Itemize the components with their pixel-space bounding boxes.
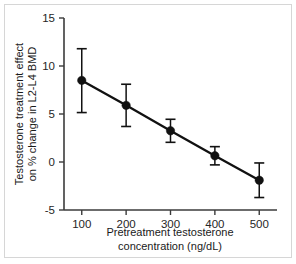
y-axis-title-line2: on % change in L2-L4 BMD xyxy=(26,47,38,182)
y-tick-label: 0 xyxy=(49,156,55,168)
y-tick-label: 5 xyxy=(49,108,55,120)
data-point-marker xyxy=(211,152,219,160)
y-axis-title-line1: Testosterone treatment effect xyxy=(13,43,25,185)
error-bar-group xyxy=(77,49,265,198)
data-point-marker xyxy=(166,127,174,135)
chart-canvas: 151050-5 100200300400500 Pretreatment te… xyxy=(0,0,296,264)
x-tick-label: 100 xyxy=(72,218,91,230)
y-tick-label: 10 xyxy=(42,60,55,72)
y-tick-label: -5 xyxy=(45,204,55,216)
y-tick-label: 15 xyxy=(42,12,55,24)
scatter-line-chart: 151050-5 100200300400500 Pretreatment te… xyxy=(0,0,296,264)
y-axis-tick-group: 151050-5 xyxy=(42,12,64,216)
x-axis-title-line2: concentration (ng/dL) xyxy=(118,240,222,252)
data-point-marker xyxy=(255,176,263,184)
x-tick-label: 500 xyxy=(250,218,269,230)
data-point-marker xyxy=(122,101,130,109)
data-point-marker xyxy=(78,76,86,84)
x-axis-title-line1: Pretreatment testosterone xyxy=(106,226,233,238)
